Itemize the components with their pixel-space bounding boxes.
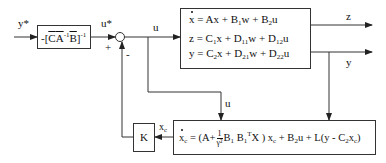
- xc-label: xc: [159, 122, 167, 132]
- y-star-label: y*: [18, 18, 29, 29]
- summing-junction: [116, 33, 125, 42]
- plant-y-equation: y = C2x + D21w + D22u: [189, 47, 310, 60]
- plant-state-equation: x = Ax + B1w + B2u: [189, 13, 310, 26]
- gamma-fraction: 1γ²: [217, 130, 223, 147]
- plant-block: x = Ax + B1w + B2u z = C1x + D11w + D12u…: [180, 8, 311, 69]
- minus-sign: -: [126, 49, 130, 60]
- u-star-label: u*: [101, 18, 112, 29]
- feedforward-gain-block: -[CA-1B]-1: [37, 25, 91, 49]
- y-label: y: [346, 57, 352, 68]
- controller-block: xc = (A+1γ²B1 B1TX ) xc + B2u + L(y - C2…: [173, 120, 376, 155]
- controller-equation: xc = (A+1γ²B1 B1TX ) xc + B2u + L(y - C2…: [179, 130, 375, 147]
- u-label-controller: u: [225, 98, 231, 109]
- feedforward-gain-expr: -[CA-1B]-1: [41, 32, 86, 45]
- plus-sign: +: [105, 42, 111, 53]
- u-label-top: u: [153, 22, 159, 33]
- z-label: z: [346, 11, 351, 22]
- plant-z-equation: z = C1x + D11w + D12u: [189, 32, 310, 45]
- gain-k-label: K: [140, 131, 148, 143]
- gain-k-block: K: [133, 123, 155, 152]
